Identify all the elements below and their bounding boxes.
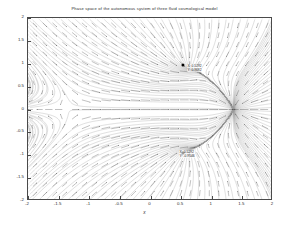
field-arrow	[170, 61, 177, 65]
y-tick	[28, 18, 31, 19]
field-arrow	[102, 61, 109, 64]
phase-portrait-figure: Phase space of the autonomous system of …	[0, 0, 289, 227]
x-tick	[212, 196, 213, 199]
field-arrow	[72, 90, 78, 94]
field-arrow	[62, 192, 66, 196]
x-tick	[28, 196, 29, 199]
streamline	[28, 29, 29, 36]
field-arrow	[207, 162, 209, 168]
field-arrow	[266, 182, 268, 187]
field-arrow	[170, 42, 174, 48]
field-arrow	[53, 32, 57, 36]
vector-field-canvas	[28, 18, 272, 200]
field-arrow	[160, 61, 167, 65]
field-arrow	[141, 61, 149, 64]
field-arrow	[131, 100, 140, 101]
field-arrow	[111, 164, 118, 168]
field-arrow	[160, 162, 166, 167]
streamline	[32, 109, 234, 200]
field-arrow	[131, 42, 137, 46]
streamline	[28, 113, 48, 159]
field-arrow	[72, 100, 78, 104]
field-arrow	[255, 52, 258, 57]
field-arrow	[226, 162, 229, 167]
field-arrow	[217, 42, 219, 48]
field-arrow	[180, 80, 189, 81]
streamline	[233, 60, 271, 110]
field-arrow	[206, 153, 209, 158]
streamline	[28, 41, 29, 48]
lower-fixed-point-label: X: 0.5292 Y: -0.9546	[179, 150, 195, 158]
field-arrow	[121, 154, 128, 157]
field-arrow	[102, 118, 111, 119]
y-tick-label: 1.5	[18, 37, 24, 43]
y-tick-label: 1	[22, 60, 24, 66]
field-arrow	[92, 32, 97, 36]
field-arrow	[38, 117, 43, 120]
field-arrow	[160, 171, 165, 177]
streamline	[97, 19, 234, 110]
streamline	[75, 109, 234, 199]
field-arrow	[72, 173, 77, 177]
field-arrow	[236, 123, 238, 128]
field-arrow	[121, 81, 129, 83]
streamline	[28, 168, 29, 175]
field-arrow	[160, 191, 163, 197]
field-arrow	[53, 81, 56, 85]
field-arrow	[43, 154, 47, 158]
field-arrow	[190, 171, 191, 177]
field-arrow	[141, 145, 149, 148]
field-arrow	[151, 23, 155, 28]
field-arrow	[141, 163, 148, 167]
y-tick-label: -1	[20, 151, 24, 157]
field-arrow	[48, 100, 53, 103]
field-arrow	[82, 90, 90, 93]
field-arrow	[151, 71, 159, 73]
field-arrow	[121, 90, 130, 91]
streamline	[30, 36, 234, 109]
y-tick	[28, 41, 31, 42]
field-arrow	[92, 118, 101, 119]
field-arrow	[131, 154, 139, 157]
field-arrow	[246, 42, 248, 47]
field-arrow	[198, 161, 200, 167]
field-arrow	[257, 191, 259, 196]
field-arrow	[131, 172, 137, 176]
streamline	[206, 20, 234, 110]
field-arrow	[227, 71, 229, 76]
field-arrow	[121, 52, 128, 56]
field-arrow	[92, 173, 98, 177]
plot-area: X: 0.5292 Y: 0.9682 X: 0.5292 Y: -0.9546	[27, 17, 272, 200]
field-arrow	[216, 61, 219, 66]
field-arrow	[200, 190, 201, 196]
field-arrow	[141, 81, 150, 83]
streamline	[111, 19, 233, 109]
field-arrow	[82, 154, 88, 158]
field-arrow	[160, 23, 163, 29]
field-arrow	[102, 100, 111, 101]
field-arrow	[190, 42, 191, 48]
field-arrow	[160, 52, 166, 57]
field-arrow	[53, 192, 57, 196]
field-arrow	[111, 182, 116, 186]
field-arrow	[131, 32, 136, 37]
field-arrow	[245, 153, 248, 158]
streamline	[28, 21, 29, 28]
field-arrow	[43, 144, 46, 148]
field-arrow	[263, 135, 268, 139]
field-arrow	[111, 71, 119, 74]
field-arrow	[62, 124, 65, 129]
field-arrow	[92, 164, 98, 168]
field-arrow	[102, 192, 107, 196]
field-arrow	[62, 144, 67, 148]
field-arrow	[265, 52, 268, 56]
field-arrow	[247, 182, 249, 187]
streamline	[233, 29, 271, 110]
field-arrow	[43, 192, 47, 196]
field-arrow	[72, 154, 78, 158]
streamline	[28, 33, 29, 40]
field-arrow	[237, 32, 239, 37]
streamline	[39, 109, 233, 199]
field-arrow	[82, 126, 90, 129]
field-arrow	[82, 117, 91, 119]
